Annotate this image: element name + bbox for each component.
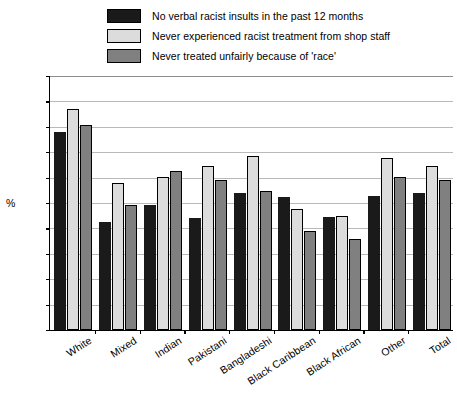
bar-group	[322, 76, 362, 330]
x-axis-category-label: Other	[378, 334, 407, 359]
plot-area: 10095908580757065605550	[49, 76, 453, 331]
bar[interactable]	[125, 205, 137, 330]
bar[interactable]	[368, 196, 380, 330]
bar-groups	[50, 76, 453, 330]
bar[interactable]	[144, 205, 156, 330]
bar[interactable]	[202, 166, 214, 330]
bar[interactable]	[234, 193, 246, 330]
bar-group	[98, 76, 138, 330]
bar[interactable]	[80, 125, 92, 330]
bar[interactable]	[157, 177, 169, 330]
bar[interactable]	[247, 156, 259, 330]
bar[interactable]	[67, 109, 79, 330]
bar[interactable]	[349, 239, 361, 330]
bar[interactable]	[170, 171, 182, 330]
bar[interactable]	[291, 209, 303, 330]
x-axis-category-label: White	[64, 334, 93, 359]
bar[interactable]	[260, 191, 272, 330]
y-axis-title: %	[6, 197, 15, 209]
bar[interactable]	[426, 166, 438, 330]
bar-group	[412, 76, 452, 330]
bar[interactable]	[323, 217, 335, 330]
x-axis-labels: WhiteMixedIndianPakistaniBangladeshiBlac…	[49, 330, 452, 400]
x-axis-category-label: Total	[427, 334, 453, 356]
bar-group	[188, 76, 228, 330]
bar-group	[367, 76, 407, 330]
bar-group	[53, 76, 93, 330]
bar[interactable]	[99, 222, 111, 330]
x-axis-category-label: Mixed	[108, 334, 138, 360]
bar[interactable]	[189, 218, 201, 330]
bar[interactable]	[336, 216, 348, 330]
bar-group	[277, 76, 317, 330]
x-axis-category-label: Indian	[152, 334, 183, 360]
bar[interactable]	[381, 158, 393, 330]
bar[interactable]	[394, 177, 406, 330]
bar-group	[233, 76, 273, 330]
bar[interactable]	[439, 180, 451, 330]
bar[interactable]	[54, 132, 66, 330]
bar-chart: No verbal racist insults in the past 12 …	[0, 0, 457, 400]
bar[interactable]	[112, 183, 124, 330]
bar[interactable]	[304, 231, 316, 330]
bar[interactable]	[278, 197, 290, 330]
bar-group	[143, 76, 183, 330]
bar[interactable]	[215, 180, 227, 330]
bar[interactable]	[413, 193, 425, 330]
